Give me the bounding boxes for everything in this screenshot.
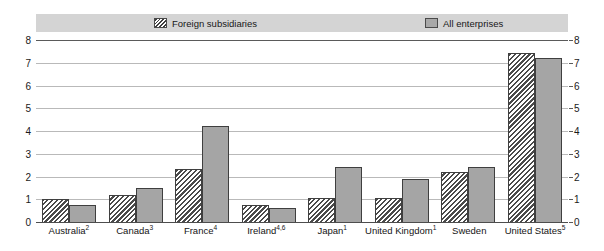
x-tick-united-states-footnote: 5 <box>562 224 566 231</box>
y-tick-right-3: 3 <box>574 150 598 160</box>
x-tick-united-kingdom-name: United Kingdom <box>365 225 433 236</box>
x-tick-australia-footnote: 2 <box>86 224 90 231</box>
bar-canada-all-enterprises <box>136 188 163 222</box>
x-tick-united-states-name: United States <box>505 225 562 236</box>
x-axis-categories: Australia2 Canada3 France4 Ireland4,6 Ja… <box>36 226 568 248</box>
bar-group-united-kingdom <box>369 40 436 222</box>
x-axis-line <box>36 222 568 223</box>
hatch-swatch-icon <box>154 18 167 28</box>
y-tick-right-0: 0 <box>574 218 598 228</box>
bar-united-states-foreign-subsidiaries <box>508 53 535 222</box>
y-tick-left-0: 0 <box>7 218 31 228</box>
x-tick-united-kingdom: United Kingdom1 <box>365 226 436 248</box>
x-tick-france: France4 <box>168 226 234 248</box>
y-tick-left-1: 1 <box>7 195 31 205</box>
bar-ireland-all-enterprises <box>269 208 296 222</box>
bar-australia-all-enterprises <box>69 205 96 222</box>
x-tick-australia-name: Australia <box>49 225 86 236</box>
y-tick-right-4: 4 <box>574 127 598 137</box>
bar-group-australia <box>36 40 103 222</box>
bar-france-all-enterprises <box>202 126 229 222</box>
y-tick-left-4: 4 <box>7 127 31 137</box>
x-tick-france-footnote: 4 <box>213 224 217 231</box>
bar-group-france <box>169 40 236 222</box>
chart-legend: Foreign subsidiaries All enterprises <box>36 14 568 32</box>
bar-united-kingdom-all-enterprises <box>402 179 429 222</box>
x-tick-japan: Japan1 <box>299 226 365 248</box>
legend-label-all-enterprises: All enterprises <box>443 18 503 29</box>
y-tick-right-1: 1 <box>574 195 598 205</box>
x-tick-ireland-footnote: 4,6 <box>276 224 285 231</box>
bar-group-united-states <box>502 40 569 222</box>
bar-sweden-foreign-subsidiaries <box>441 172 468 222</box>
bar-united-states-all-enterprises <box>535 58 562 222</box>
x-tick-japan-footnote: 1 <box>343 224 347 231</box>
x-tick-france-name: France <box>184 225 214 236</box>
y-tick-left-8: 8 <box>7 36 31 46</box>
bar-group-ireland <box>236 40 303 222</box>
x-tick-canada-name: Canada <box>116 225 149 236</box>
solid-swatch-icon <box>425 18 438 28</box>
x-tick-sweden: Sweden <box>436 226 502 248</box>
y-tick-right-2: 2 <box>574 173 598 183</box>
x-tick-ireland-name: Ireland <box>247 225 276 236</box>
bar-sweden-all-enterprises <box>468 167 495 222</box>
bar-groups <box>36 40 568 222</box>
x-tick-united-states: United States5 <box>502 226 568 248</box>
y-tick-right-5: 5 <box>574 104 598 114</box>
y-tick-left-2: 2 <box>7 173 31 183</box>
bar-chart: Foreign subsidiaries All enterprises <box>0 0 604 251</box>
bar-canada-foreign-subsidiaries <box>109 195 136 222</box>
bar-japan-all-enterprises <box>335 167 362 222</box>
bar-australia-foreign-subsidiaries <box>42 199 69 222</box>
y-tick-right-6: 6 <box>574 82 598 92</box>
x-tick-australia: Australia2 <box>36 226 102 248</box>
y-tick-right-8: 8 <box>574 36 598 46</box>
x-tick-canada-footnote: 3 <box>150 224 154 231</box>
bar-group-japan <box>302 40 369 222</box>
bar-japan-foreign-subsidiaries <box>308 198 335 222</box>
y-tick-left-7: 7 <box>7 59 31 69</box>
y-tick-left-6: 6 <box>7 82 31 92</box>
bar-united-kingdom-foreign-subsidiaries <box>375 198 402 222</box>
x-tick-ireland: Ireland4,6 <box>233 226 299 248</box>
legend-item-all-enterprises: All enterprises <box>425 18 503 29</box>
y-axis-right: 8 7 6 5 4 3 2 1 0 <box>574 40 602 222</box>
bar-group-canada <box>103 40 170 222</box>
x-tick-canada: Canada3 <box>102 226 168 248</box>
bar-group-sweden <box>435 40 502 222</box>
y-tick-left-3: 3 <box>7 150 31 160</box>
y-tick-left-5: 5 <box>7 104 31 114</box>
bar-ireland-foreign-subsidiaries <box>242 205 269 222</box>
y-tick-right-7: 7 <box>574 59 598 69</box>
x-tick-sweden-name: Sweden <box>452 225 486 236</box>
bar-france-foreign-subsidiaries <box>175 169 202 222</box>
legend-label-foreign-subsidiaries: Foreign subsidiaries <box>172 18 257 29</box>
y-axis-left: 8 7 6 5 4 3 2 1 0 <box>0 40 31 222</box>
legend-item-foreign-subsidiaries: Foreign subsidiaries <box>154 18 257 29</box>
x-tick-japan-name: Japan <box>317 225 343 236</box>
